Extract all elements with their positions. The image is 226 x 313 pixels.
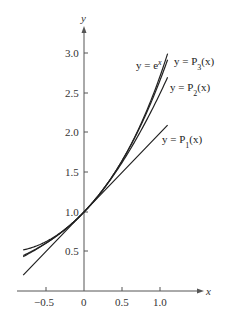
y-tick-label: 2.0 bbox=[65, 126, 79, 138]
x-ticks bbox=[46, 287, 160, 291]
curve-y-p2-x- bbox=[23, 77, 167, 250]
x-tick-label: 0.5 bbox=[115, 296, 129, 308]
y-axis-arrow-icon bbox=[82, 26, 87, 33]
label-ex: y = ex bbox=[136, 58, 162, 72]
curve-y-p1-x- bbox=[23, 125, 167, 275]
y-ticks bbox=[84, 53, 88, 251]
x-tick-label: 1.0 bbox=[153, 296, 167, 308]
y-tick-label: 2.5 bbox=[65, 87, 79, 99]
y-tick-label: 1.0 bbox=[65, 206, 79, 218]
x-axis-label: x bbox=[205, 285, 211, 297]
taylor-polynomial-chart: x y −0.5 0 0.5 1.0 0.5 1.0 1.5 2.0 2.5 3… bbox=[0, 0, 226, 313]
curve-y-e-x bbox=[23, 54, 167, 256]
y-tick-label: 0.5 bbox=[65, 245, 79, 257]
label-p3: y = P3(x) bbox=[174, 55, 214, 72]
curve-y-p3-x- bbox=[23, 60, 167, 257]
x-axis-arrow-icon bbox=[197, 289, 204, 294]
y-tick-label: 3.0 bbox=[65, 47, 79, 59]
x-tick-label: −0.5 bbox=[34, 296, 54, 308]
y-axis-label: y bbox=[80, 12, 86, 24]
x-tick-label: 0 bbox=[81, 296, 87, 308]
label-p2: y = P2(x) bbox=[170, 81, 210, 98]
curves bbox=[23, 54, 167, 276]
label-p1: y = P1(x) bbox=[162, 133, 202, 150]
y-tick-label: 1.5 bbox=[65, 166, 79, 178]
